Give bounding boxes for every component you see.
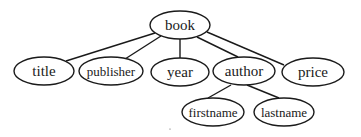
node-publisher: publisher: [79, 57, 143, 85]
node-label: book: [165, 17, 196, 33]
node-firstname: firstname: [182, 98, 244, 126]
node-label: year: [167, 64, 193, 80]
node-label: firstname: [188, 105, 237, 120]
edge-book-author: [197, 37, 238, 57]
node-year: year: [151, 58, 209, 86]
xml-tree-diagram: booktitlepublisheryearauthorpricefirstna…: [0, 0, 361, 137]
edge-author-firstname: [208, 85, 231, 98]
node-price: price: [282, 58, 344, 86]
node-label: title: [32, 63, 56, 79]
node-label: lastname: [261, 105, 307, 120]
stray-mark: [169, 128, 170, 129]
node-lastname: lastname: [254, 98, 314, 126]
node-label: publisher: [87, 64, 136, 79]
node-title: title: [14, 57, 74, 85]
edge-book-publisher: [125, 36, 161, 59]
node-label: price: [298, 64, 328, 80]
nodes-layer: booktitlepublisheryearauthorpricefirstna…: [14, 11, 344, 126]
node-label: author: [225, 63, 263, 79]
edge-author-lastname: [247, 85, 279, 98]
node-book: book: [150, 11, 210, 39]
node-author: author: [213, 57, 275, 85]
